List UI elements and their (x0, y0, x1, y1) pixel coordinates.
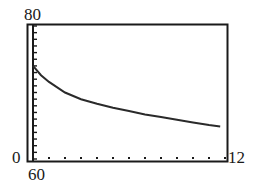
x-axis-tick-dots (48, 157, 226, 159)
viewing-window-frame (28, 25, 228, 162)
y-axis-ticks (33, 26, 37, 159)
function-curve (33, 66, 220, 127)
graph-window (0, 0, 261, 190)
